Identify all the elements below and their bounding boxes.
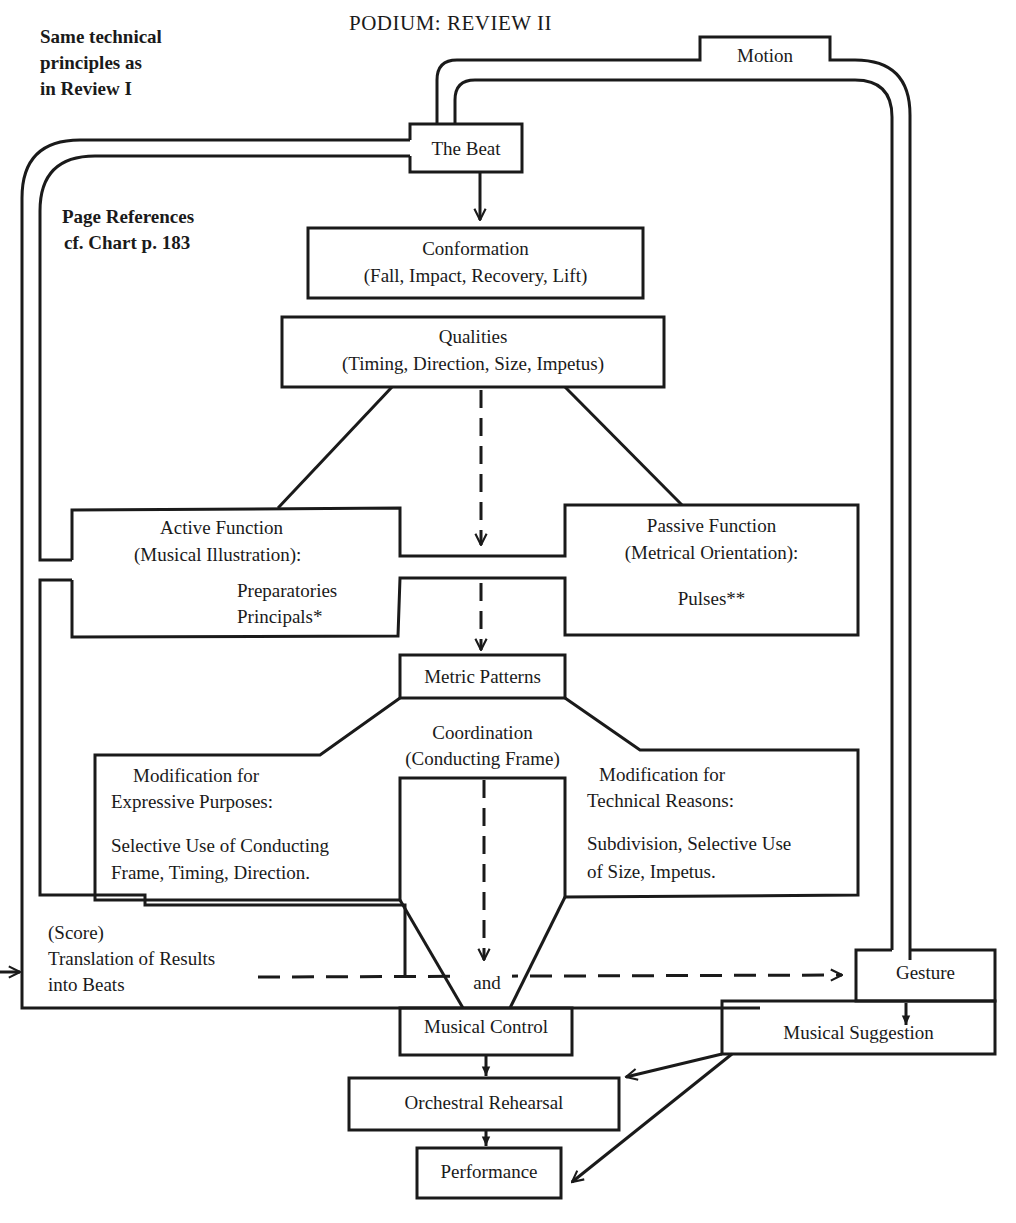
node-passive-subtitle: (Metrical Orientation):: [565, 540, 858, 566]
node-mod-expressive-title: Modification for: [133, 763, 259, 789]
note-page-refs-line-2: cf. Chart p. 183: [64, 230, 190, 256]
node-qualities-title: Qualities: [282, 324, 664, 350]
note-principles-line-1: Same technical: [40, 24, 162, 50]
note-principles-line-3: in Review I: [40, 76, 132, 102]
note-page-refs-line-1: Page References: [62, 204, 194, 230]
note-principles-line-2: principles as: [40, 50, 142, 76]
node-active-item-preparatories: Preparatories: [237, 578, 337, 604]
node-mod-technical-subtitle: Technical Reasons:: [587, 788, 734, 814]
node-translation-line-3: into Beats: [48, 972, 125, 998]
node-conformation-title: Conformation: [308, 236, 643, 262]
node-translation-line-2: Translation of Results: [48, 946, 215, 972]
node-passive-title: Passive Function: [565, 513, 858, 539]
node-mod-technical-line-2: of Size, Impetus.: [587, 859, 716, 885]
node-conformation-detail: (Fall, Impact, Recovery, Lift): [308, 263, 643, 289]
node-active-item-principals: Principals*: [237, 604, 323, 630]
node-the-beat: The Beat: [410, 136, 522, 162]
node-active-title: Active Function: [160, 515, 283, 541]
node-mod-expressive-line-2: Frame, Timing, Direction.: [111, 860, 310, 886]
node-coordination-detail: (Conducting Frame): [380, 746, 585, 772]
node-motion: Motion: [700, 43, 830, 69]
node-musical-control: Musical Control: [400, 1014, 572, 1040]
node-orchestral-rehearsal: Orchestral Rehearsal: [349, 1090, 619, 1116]
node-metric-patterns: Metric Patterns: [400, 664, 565, 690]
page-title: PODIUM: REVIEW II: [349, 10, 552, 36]
node-active-subtitle: (Musical Illustration):: [134, 542, 301, 568]
node-qualities-detail: (Timing, Direction, Size, Impetus): [282, 351, 664, 377]
node-and: and: [462, 970, 512, 996]
node-translation-line-1: (Score): [48, 920, 104, 946]
node-musical-suggestion: Musical Suggestion: [722, 1020, 995, 1046]
node-mod-technical-title: Modification for: [599, 762, 725, 788]
node-mod-expressive-line-1: Selective Use of Conducting: [111, 833, 329, 859]
node-performance: Performance: [417, 1159, 561, 1185]
node-passive-item-pulses: Pulses**: [565, 586, 858, 612]
node-coordination-title: Coordination: [380, 720, 585, 746]
node-mod-technical-line-1: Subdivision, Selective Use: [587, 831, 791, 857]
node-mod-expressive-subtitle: Expressive Purposes:: [111, 789, 273, 815]
node-gesture: Gesture: [856, 960, 995, 986]
